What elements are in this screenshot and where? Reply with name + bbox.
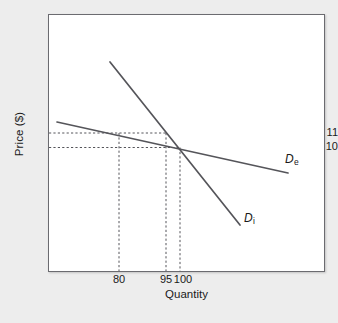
x-tick-label-100: 100 — [163, 274, 203, 285]
demand-curve-inelastic — [110, 62, 240, 225]
curve-label-elastic: De — [285, 152, 298, 166]
curve-label-inelastic-base: D — [244, 211, 253, 225]
x-tick-label-80: 80 — [99, 274, 139, 285]
y-tick-label-11: 11 — [294, 127, 338, 138]
figure-container: Price ($) 11 10 80 95 100 Quantity De Di — [0, 0, 338, 323]
curve-label-inelastic-subscript: i — [253, 216, 255, 226]
x-axis-title: Quantity — [48, 288, 325, 300]
y-tick-label-10: 10 — [294, 141, 338, 152]
demand-curve-elastic — [57, 122, 288, 173]
curve-label-elastic-base: D — [285, 152, 294, 166]
y-axis-title: Price ($) — [13, 99, 25, 169]
curve-label-elastic-subscript: e — [294, 157, 299, 167]
curve-label-inelastic: Di — [244, 211, 255, 225]
